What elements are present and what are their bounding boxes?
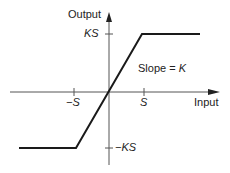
slope-label: Slope = K [138, 62, 186, 74]
slope-symbol: K [179, 62, 186, 74]
y-tick-ks-label: KS [84, 27, 99, 39]
x-tick-s-label: S [140, 96, 147, 108]
x-tick-neg-s-label: −S [66, 96, 80, 108]
slope-text: Slope = [138, 62, 179, 74]
x-axis-label: Input [194, 96, 218, 108]
x-axis-arrow-icon [208, 89, 220, 95]
y-tick-neg-ks-label: −KS [115, 141, 136, 153]
y-axis-label: Output [68, 8, 101, 20]
y-axis-arrow-icon [106, 12, 112, 22]
